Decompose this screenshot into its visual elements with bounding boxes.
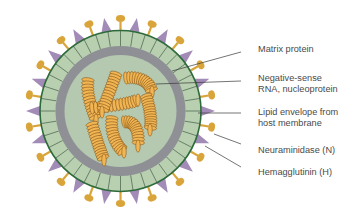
leader-line-hemagglutinin — [205, 146, 241, 167]
hemagglutinin-spike — [147, 19, 158, 36]
hemagglutinin-spike — [189, 59, 206, 71]
label-line: Negative-sense — [258, 73, 338, 84]
hemagglutinin-spike — [172, 35, 186, 51]
leader-line-neuraminidase — [214, 134, 241, 144]
hemagglutinin-spike — [35, 59, 52, 71]
label-line: Hemagglutinin (H) — [258, 167, 332, 178]
label-matrix-protein: Matrix protein — [258, 44, 314, 55]
neuraminidase-spike — [26, 105, 41, 116]
hemagglutinin-spike — [25, 90, 42, 100]
hemagglutinin-spike — [25, 122, 42, 132]
label-line: RNA, nucleoprotein — [258, 84, 338, 95]
label-lipid-envelope: Lipid envelope from host membrane — [258, 107, 338, 129]
hemagglutinin-spike — [199, 122, 216, 132]
label-line: host membrane — [258, 118, 338, 129]
hemagglutinin-spike — [199, 90, 216, 100]
label-line: Neuraminidase (N) — [258, 145, 335, 156]
neuraminidase-spike — [200, 105, 215, 116]
hemagglutinin-spike — [116, 15, 125, 31]
label-line: Matrix protein — [258, 44, 314, 55]
label-rna-nucleoprotein: Negative-sense RNA, nucleoprotein — [258, 73, 338, 95]
hemagglutinin-spike — [55, 35, 69, 51]
hemagglutinin-spike — [55, 172, 69, 188]
hemagglutinin-spike — [83, 186, 94, 203]
label-hemagglutinin: Hemagglutinin (H) — [258, 167, 332, 178]
hemagglutinin-spike — [83, 19, 94, 36]
label-neuraminidase: Neuraminidase (N) — [258, 145, 335, 156]
hemagglutinin-spike — [172, 172, 186, 188]
hemagglutinin-spike — [35, 151, 52, 163]
hemagglutinin-spike — [116, 191, 125, 207]
label-line: Lipid envelope from — [258, 107, 338, 118]
hemagglutinin-spike — [189, 151, 206, 163]
hemagglutinin-spike — [147, 186, 158, 203]
